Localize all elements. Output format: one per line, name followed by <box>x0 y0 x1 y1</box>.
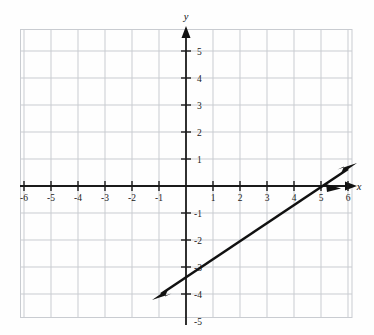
y-tick-label: 1 <box>197 155 202 165</box>
graph-figure: -6 -5 -4 -3 -2 -1 1 2 3 4 5 6 5 4 3 2 1 … <box>0 0 374 335</box>
y-tick-label: -5 <box>194 317 202 327</box>
x-axis-label: x <box>356 181 362 192</box>
y-tick-label: 2 <box>197 128 202 138</box>
x-tick-label: 3 <box>265 193 270 203</box>
y-axis-label: y <box>183 11 189 22</box>
y-tick-label: 4 <box>197 74 202 84</box>
x-tick-label: 6 <box>346 193 351 203</box>
x-tick-label: -5 <box>47 193 55 203</box>
x-tick-label: -2 <box>128 193 136 203</box>
x-tick-label: 5 <box>319 193 324 203</box>
x-tick-label: 4 <box>292 193 297 203</box>
coordinate-plane-svg: -6 -5 -4 -3 -2 -1 1 2 3 4 5 6 5 4 3 2 1 … <box>0 0 374 335</box>
y-tick-label: 5 <box>197 47 202 57</box>
x-tick-label: -1 <box>155 193 163 203</box>
y-tick-label: 3 <box>197 101 202 111</box>
figure-background <box>0 0 374 335</box>
y-tick-label: -2 <box>194 236 202 246</box>
x-tick-label: -6 <box>20 193 28 203</box>
x-tick-label: 1 <box>211 193 216 203</box>
y-tick-label: -4 <box>194 290 202 300</box>
x-tick-label: -4 <box>74 193 82 203</box>
x-tick-label: 2 <box>238 193 243 203</box>
y-tick-label: -1 <box>194 209 202 219</box>
x-tick-label: -3 <box>101 193 109 203</box>
